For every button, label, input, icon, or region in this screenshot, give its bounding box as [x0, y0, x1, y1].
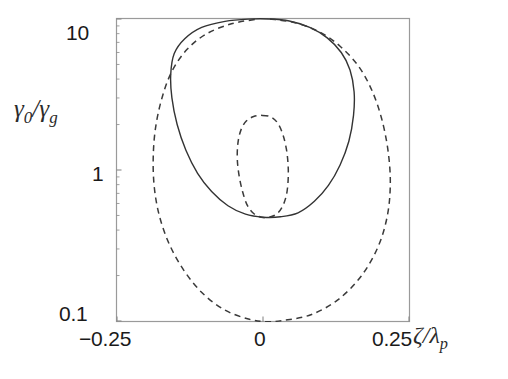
- y-tick-label-1: 1: [92, 162, 103, 186]
- x-axis-numerator: ζ: [413, 322, 423, 348]
- tick-marks: [117, 19, 410, 322]
- x-axis-denominator-subscript: p: [440, 334, 448, 353]
- y-tick-label-0-1: 0.1: [59, 302, 88, 326]
- figure-container: 10 1 0.1 −0.25 0 0.25 γ0/γg ζ/λp: [0, 0, 508, 379]
- curve-solid-separatrix: [171, 19, 355, 218]
- curve-dashed-outer-separatrix: [153, 19, 390, 322]
- y-axis-title: γ0/γg: [14, 95, 58, 128]
- x-tick-label-neg-0-25: −0.25: [79, 327, 131, 351]
- y-tick-label-10: 10: [66, 21, 89, 45]
- y-axis-denominator-subscript: g: [49, 108, 58, 127]
- x-axis-title: ζ/λp: [413, 322, 448, 354]
- curve-dashed-inner-orbit: [237, 115, 288, 217]
- data-curves: [153, 19, 390, 322]
- x-tick-label-0-25: 0.25: [372, 327, 412, 351]
- axes-frame: [117, 19, 410, 322]
- x-tick-label-0: 0: [254, 327, 265, 351]
- plot-frame: [117, 19, 410, 322]
- y-axis-denominator: γ: [39, 95, 49, 122]
- y-axis-numerator: γ: [14, 95, 24, 122]
- x-axis-denominator: λ: [429, 322, 439, 348]
